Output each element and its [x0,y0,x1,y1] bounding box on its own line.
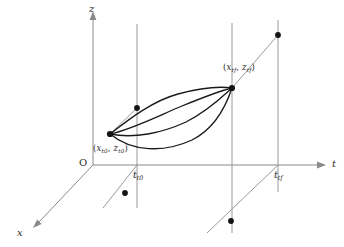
trajectory-curve-2 [110,88,232,134]
t0-floor-depth-line [103,165,137,208]
t-axis-label: t [332,159,336,169]
t-final-tick-sub: tf [278,174,283,181]
final-state-label: (xtf, ztf) [223,63,255,73]
z-axis-label: z [89,4,94,14]
initial-state-node [107,131,113,137]
initial-state-close-paren: ) [125,143,129,153]
final-state-close-paren: ) [252,62,256,72]
t-final-tick-label: ttf [274,170,283,181]
t-initial-tick-sub: t0 [137,174,144,181]
final-state-node [229,85,235,91]
t0-upper-node [134,105,140,111]
tf-upper-node [275,32,281,38]
t-initial-tick-label: tt0 [133,170,143,181]
initial-state-comma: , [108,143,111,153]
t0-floor-node [122,190,128,196]
origin-label: O [79,158,87,168]
trajectory-curve-4 [110,88,232,149]
x-axis-line [39,165,93,222]
final-state-comma: , [236,62,239,72]
tf-floor-node [228,218,234,224]
initial-state-label: (xt0, zt0) [93,144,128,154]
t-axis-arrowhead [317,162,326,169]
x-axis-label: x [17,228,23,238]
tf-floor-depth-line [207,165,278,233]
figure-root: z t x O tt0 ttf (xt0, zt0) (xtf, ztf) [0,0,344,247]
figure-canvas [0,0,344,247]
